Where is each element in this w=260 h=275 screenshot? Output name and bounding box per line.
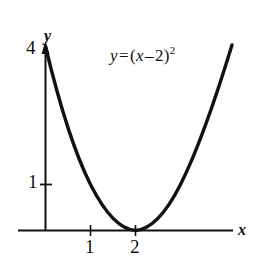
- equation-lhs: y: [110, 46, 118, 65]
- equation-variable: x: [136, 46, 144, 65]
- parabola-curve: [46, 45, 233, 231]
- graph-canvas: [0, 0, 260, 275]
- y-axis-label: y: [44, 28, 51, 44]
- x-axis-label: x: [238, 222, 246, 238]
- y-tick-label-4: 4: [26, 38, 36, 57]
- equation-exponent: 2: [170, 44, 176, 56]
- parabola-figure: y x 4 1 1 2 y=(x–2)2: [0, 0, 260, 275]
- x-tick-label-2: 2: [130, 237, 140, 256]
- equation-minus: –: [144, 46, 155, 65]
- equation-constant: 2: [155, 46, 164, 65]
- y-tick-label-1: 1: [28, 172, 38, 191]
- x-tick-label-1: 1: [85, 237, 95, 256]
- equation-annotation: y=(x–2)2: [110, 47, 176, 64]
- equation-equals: =: [118, 46, 130, 65]
